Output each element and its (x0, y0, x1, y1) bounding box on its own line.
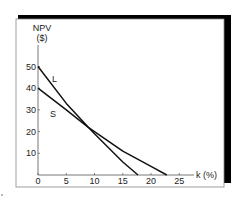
x-tick-label: 15 (118, 176, 128, 186)
chart-frame-border (16, 19, 224, 187)
series-label-s: S (50, 109, 56, 119)
x-tick-label: 10 (89, 176, 99, 186)
x-tick-label: 25 (174, 176, 184, 186)
x-tick-label: 0 (35, 176, 40, 186)
y-tick-label: 20 (26, 127, 36, 137)
stray-dot (1, 194, 2, 195)
y-tick-label: 30 (26, 105, 36, 115)
x-axis-label: k (%) (196, 170, 217, 180)
y-axis-label-line2: ($) (37, 33, 48, 43)
series-label-l: L (52, 74, 57, 84)
frame-shadow-right (224, 15, 231, 183)
y-tick-label: 40 (26, 83, 36, 93)
x-tick-label: 5 (64, 176, 69, 186)
y-tick-label: 10 (26, 148, 36, 158)
npv-profile-chart: NPV ($) 05101520251020304050 k (%) L S (0, 0, 241, 201)
x-tick-label: 20 (146, 176, 156, 186)
y-axis-label-line1: NPV (33, 23, 52, 33)
y-tick-label: 50 (26, 62, 36, 72)
